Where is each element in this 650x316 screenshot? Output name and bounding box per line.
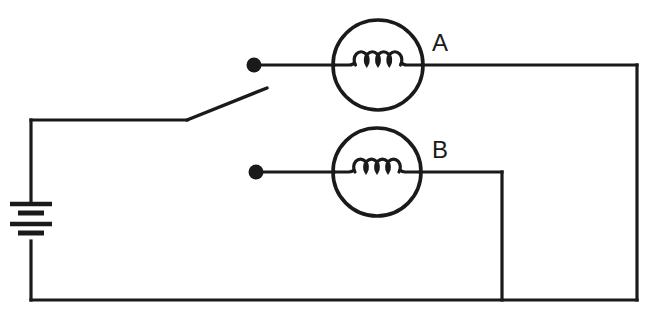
switch-blade[interactable] — [187, 88, 267, 120]
lamp-a-filament-lead-right — [401, 62, 424, 65]
circuit-diagram-canvas: A B — [0, 0, 650, 316]
lamp-b-terminal-dot — [249, 165, 264, 180]
switch-symbol[interactable] — [187, 88, 267, 120]
lamp-a-filament-coil — [354, 52, 402, 65]
lamp-a-filament-lead-left — [333, 62, 356, 65]
lamp-b-label: B — [432, 136, 448, 163]
lamp-a-terminal-dot — [247, 58, 262, 73]
lamp-a-label: A — [432, 29, 448, 56]
battery-symbol — [10, 204, 52, 233]
lamp-b-filament-lead-right — [399, 169, 421, 172]
lamp-b-filament-lead-left — [333, 169, 355, 172]
circuit-diagram-root: A B — [0, 0, 650, 316]
lamp-b-filament-coil — [354, 159, 401, 172]
